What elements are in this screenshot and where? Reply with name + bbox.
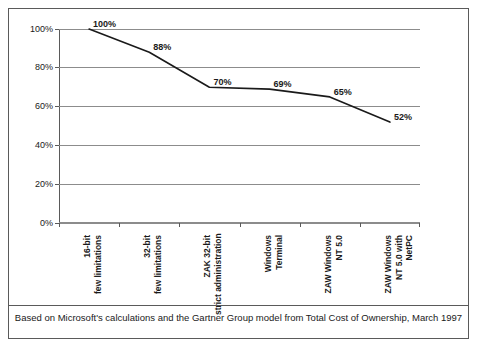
x-category-label: ZAW WindowsNT 5.0 withNetPC — [383, 235, 397, 315]
x-category-label-line: few limitations — [153, 235, 164, 315]
x-tick-mark — [179, 223, 180, 227]
y-tick-label: 80% — [35, 63, 53, 72]
x-tick-mark — [119, 223, 120, 227]
x-category-label-line: ZAW Windows — [323, 235, 334, 315]
y-tick-mark — [55, 145, 59, 146]
x-category-label-line: 32-bit — [142, 235, 153, 315]
x-category-label: ZAK 32-bitstrict administration — [202, 235, 216, 315]
x-category-label-line: NetPC — [404, 235, 415, 315]
x-category-label: 32-bitfew limitations — [142, 235, 156, 315]
x-tick-mark — [59, 223, 60, 227]
x-category-label-line: Windows — [263, 235, 274, 315]
y-tick-mark — [55, 67, 59, 68]
data-label: 100% — [93, 20, 116, 29]
x-category-label-line: ZAK 32-bit — [202, 235, 213, 315]
x-category-label: ZAW WindowsNT 5.0 — [323, 235, 337, 315]
caption-divider — [9, 305, 468, 306]
y-tick-label: 100% — [30, 25, 53, 34]
y-tick-label: 0% — [40, 219, 53, 228]
y-axis-line — [59, 29, 60, 223]
x-category-label-line: strict administration — [213, 235, 224, 315]
y-tick-label: 40% — [35, 141, 53, 150]
x-category-label-line: ZAW Windows — [383, 235, 394, 315]
y-tick-label: 60% — [35, 102, 53, 111]
y-tick-label: 20% — [35, 180, 53, 189]
x-axis-category-labels: 16-bitfew limitations32-bitfew limitatio… — [59, 231, 420, 311]
gridline — [59, 184, 420, 185]
x-axis-ticks — [59, 223, 420, 228]
y-tick-mark — [55, 106, 59, 107]
plot-area — [59, 29, 420, 223]
x-category-label: 16-bitfew limitations — [82, 235, 96, 315]
y-tick-mark — [55, 29, 59, 30]
x-category-label: WindowsTerminal — [263, 235, 277, 315]
x-category-label-line: NT 5.0 with — [393, 235, 404, 315]
x-category-label-line: Terminal — [273, 235, 284, 315]
chart-figure: 0%20%40%60%80%100% 100%88%70%69%65%52% 1… — [8, 8, 469, 339]
gridline — [59, 106, 420, 107]
x-tick-mark — [419, 223, 420, 227]
x-tick-mark — [300, 223, 301, 227]
gridline — [59, 29, 420, 30]
y-axis-labels: 0%20%40%60%80%100% — [9, 29, 53, 223]
chart-caption: Based on Microsoft's calculations and th… — [9, 312, 468, 324]
x-category-label-line: few limitations — [93, 235, 104, 315]
gridline — [59, 67, 420, 68]
x-category-label-line: NT 5.0 — [333, 235, 344, 315]
x-tick-mark — [240, 223, 241, 227]
x-tick-mark — [360, 223, 361, 227]
gridline — [59, 145, 420, 146]
y-tick-mark — [55, 184, 59, 185]
x-category-label-line: 16-bit — [82, 235, 93, 315]
